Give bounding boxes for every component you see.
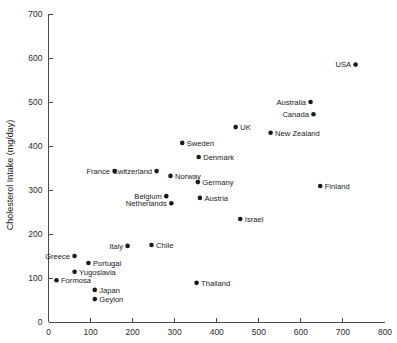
y-tick-label: 500	[28, 97, 42, 107]
data-point	[353, 62, 358, 67]
data-point	[194, 281, 199, 286]
data-point	[92, 297, 97, 302]
y-axis-title: Cholesterol Intake (mg/day)	[5, 120, 15, 231]
x-tick-label: 600	[294, 327, 308, 337]
data-point	[149, 243, 154, 248]
data-point-label: Canada	[282, 110, 309, 119]
y-tick-label: 200	[28, 229, 42, 239]
data-point	[168, 174, 173, 179]
data-point	[164, 194, 169, 199]
axis-tick-labels: 0100200300400500600700010020030040050060…	[28, 9, 392, 337]
data-point-label: Chile	[156, 241, 173, 250]
plot-area: 0100200300400500600700010020030040050060…	[0, 0, 397, 343]
data-point-label: Finland	[325, 182, 350, 191]
y-tick-label: 700	[28, 9, 42, 19]
x-tick-label: 700	[336, 327, 350, 337]
data-point	[268, 131, 273, 136]
data-point	[125, 244, 130, 249]
data-point-label: France	[86, 167, 110, 176]
data-point-label: Geylon	[99, 295, 123, 304]
data-point-label: Greece	[45, 252, 70, 261]
data-point-label: Thailand	[201, 279, 230, 288]
data-point-label: Denmark	[203, 153, 234, 162]
y-tick-label: 400	[28, 141, 42, 151]
data-point-label: Norway	[175, 172, 201, 181]
data-point	[311, 112, 316, 117]
data-point-label: Portugal	[93, 259, 122, 268]
data-point	[238, 217, 243, 222]
data-point-label: Austria	[204, 194, 228, 203]
data-point	[54, 278, 59, 283]
y-tick-label: 600	[28, 53, 42, 63]
data-point-label: USA	[335, 60, 352, 69]
data-point-label: Australia	[277, 98, 307, 107]
x-tick-label: 100	[83, 327, 97, 337]
data-point	[308, 100, 313, 105]
data-point	[154, 169, 159, 174]
data-point	[86, 261, 91, 266]
y-tick-label: 300	[28, 185, 42, 195]
x-tick-label: 500	[252, 327, 266, 337]
y-tick-label: 0	[38, 317, 43, 327]
y-tick-label: 100	[28, 273, 42, 283]
x-tick-label: 800	[378, 327, 392, 337]
data-point-label: Sweden	[187, 139, 214, 148]
data-point	[198, 196, 203, 201]
data-point-label: Germany	[202, 178, 233, 187]
data-point-label: Japan	[99, 286, 120, 295]
x-tick-label: 200	[126, 327, 140, 337]
x-tick-label: 300	[168, 327, 182, 337]
data-point-label: UK	[240, 123, 251, 132]
data-point-label: New Zealand	[275, 129, 320, 138]
data-point	[92, 288, 97, 293]
x-tick-label: 0	[46, 327, 51, 337]
data-point	[233, 125, 238, 130]
scatter-chart: 0100200300400500600700010020030040050060…	[0, 0, 397, 343]
data-point	[180, 141, 185, 146]
x-tick-label: 400	[210, 327, 224, 337]
data-point-label: Formosa	[61, 276, 92, 285]
data-point	[72, 270, 77, 275]
data-point	[318, 184, 323, 189]
data-point-label: Israel	[245, 215, 264, 224]
y-axis-title-text: Cholesterol Intake (mg/day)	[5, 120, 15, 231]
data-point-label: Netherlands	[126, 199, 167, 208]
data-point	[169, 201, 174, 206]
data-point	[196, 155, 201, 160]
data-point	[72, 254, 77, 259]
data-point-label: Switzerland	[113, 167, 152, 176]
data-point-label: Italy	[109, 242, 123, 251]
